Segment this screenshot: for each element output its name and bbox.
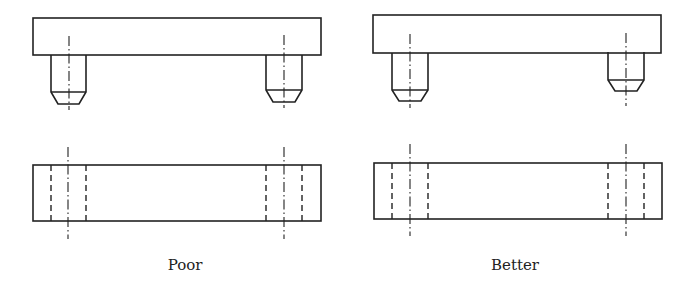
caption-poor: Poor <box>168 256 203 274</box>
better-top-plate <box>374 163 662 219</box>
better-front-plate <box>373 15 661 53</box>
poor-front-plate <box>33 18 321 55</box>
poor-top-plate <box>33 165 321 221</box>
pin-plate-comparison-drawing <box>0 0 698 284</box>
caption-better: Better <box>491 256 539 274</box>
